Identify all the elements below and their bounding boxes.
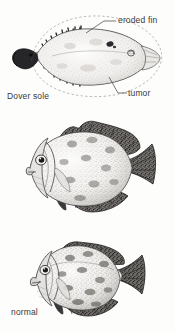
normal-crappie-illustration [0, 110, 175, 222]
annotation-label-eroded-fin: eroded fin [118, 16, 157, 25]
deformed-crappie-illustration [0, 222, 175, 332]
caption-dover-sole: Dover sole [7, 92, 49, 101]
panel-deformed-crappie: deformed black crappie [0, 222, 175, 332]
panel-dover-sole: eroded fin tumor Dover sole [0, 0, 175, 110]
dover-sole-head [13, 49, 38, 69]
dover-sole-body [36, 29, 148, 85]
panel-normal-crappie: normal [0, 110, 175, 222]
annotation-label-tumor: tumor [128, 89, 150, 98]
fish-disease-figure: eroded fin tumor Dover sole [0, 0, 175, 332]
